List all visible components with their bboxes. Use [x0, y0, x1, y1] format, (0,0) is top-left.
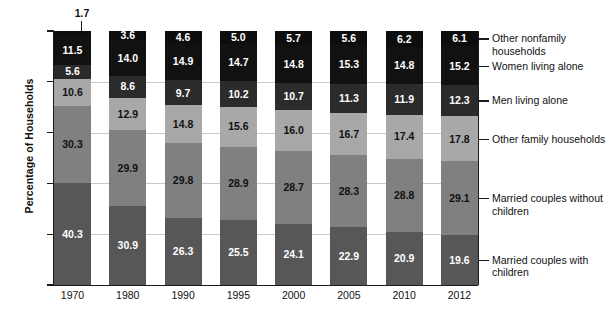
bar-value-label: 16.7 [339, 129, 359, 140]
bar-segment[interactable]: 3.6 [109, 31, 146, 40]
bar-segment[interactable]: 26.3 [165, 218, 202, 285]
bar-segment[interactable]: 22.9 [330, 227, 367, 285]
bar-value-label: 30.9 [118, 240, 138, 251]
bar-segment[interactable]: 5.6 [54, 65, 91, 79]
bar-value-label: 8.6 [120, 81, 135, 92]
bar-value-label: 25.5 [228, 247, 248, 258]
bar-segment[interactable]: 14.8 [165, 105, 202, 143]
bar-segment[interactable]: 5.6 [330, 31, 367, 45]
callout-value: 1.7 [62, 8, 102, 19]
x-axis-label-2005: 2005 [330, 289, 367, 301]
x-axis-label-2000: 2000 [275, 289, 312, 301]
bar-segment[interactable]: 28.7 [275, 151, 312, 224]
bar-value-label: 14.9 [173, 56, 193, 67]
bar-segment[interactable]: 40.3 [54, 183, 91, 285]
bar-segment[interactable]: 28.3 [330, 155, 367, 227]
bar-value-label: 4.6 [176, 32, 191, 43]
bar-segment[interactable]: 20.9 [386, 232, 423, 285]
bar-segment[interactable]: 16.0 [275, 110, 312, 151]
bar-segment[interactable]: 14.7 [220, 44, 257, 81]
bar-segment[interactable]: 5.0 [220, 31, 257, 44]
legend-item-other-nonfamily-households[interactable]: Other nonfamily households [478, 32, 612, 57]
bar-value-label: 20.9 [394, 253, 414, 264]
bar-value-label: 30.3 [62, 139, 82, 150]
bar-2005[interactable]: 5.615.311.316.728.322.9 [330, 31, 367, 285]
bar-value-label: 10.2 [228, 89, 248, 100]
x-axis-label-1990: 1990 [165, 289, 202, 301]
bar-segment[interactable]: 14.0 [109, 40, 146, 76]
x-axis-label-2012: 2012 [441, 289, 478, 301]
x-axis-label-1995: 1995 [220, 289, 257, 301]
bar-value-label: 14.7 [228, 57, 248, 68]
bar-value-label: 24.1 [283, 249, 303, 260]
bar-value-label: 15.3 [339, 59, 359, 70]
legend-item-married-couples-with-children[interactable]: Married couples with children [478, 254, 612, 279]
bar-segment[interactable]: 12.9 [109, 98, 146, 131]
bar-segment[interactable]: 14.8 [275, 45, 312, 83]
x-axis-labels: 19701980199019952000200520102012 [54, 289, 478, 301]
legend-leader-line [478, 139, 489, 140]
legend-item-married-couples-without-children[interactable]: Married couples without children [478, 192, 612, 217]
bar-1990[interactable]: 4.614.99.714.829.826.3 [165, 31, 202, 285]
bar-value-label: 6.1 [452, 33, 467, 44]
bar-segment[interactable]: 29.1 [441, 161, 478, 235]
bar-segment[interactable]: 12.3 [441, 85, 478, 116]
bar-segment[interactable]: 10.6 [54, 79, 91, 106]
legend: Other nonfamily householdsWomen living a… [478, 31, 614, 285]
bar-segment[interactable]: 10.2 [220, 81, 257, 107]
bar-segment[interactable]: 9.7 [165, 80, 202, 105]
bar-segment[interactable]: 14.8 [386, 47, 423, 85]
y-tick-100 [47, 30, 54, 31]
legend-item-other-family-households[interactable]: Other family households [478, 133, 612, 145]
bar-segment[interactable]: 5.7 [275, 31, 312, 45]
legend-label: Married couples without children [492, 192, 612, 217]
legend-label: Other family households [492, 133, 612, 145]
bar-value-label: 5.0 [231, 32, 246, 43]
bar-segment[interactable]: 29.9 [109, 130, 146, 206]
bar-value-label: 14.8 [173, 119, 193, 130]
bar-2010[interactable]: 6.214.811.917.428.820.9 [386, 31, 423, 285]
y-tick-80 [47, 81, 54, 82]
bar-segment[interactable]: 15.2 [441, 46, 478, 85]
bar-2012[interactable]: 6.115.212.317.829.119.6 [441, 31, 478, 285]
bar-segment[interactable]: 29.8 [165, 143, 202, 219]
bar-value-label: 3.6 [120, 31, 135, 40]
bar-value-label: 5.6 [342, 33, 357, 44]
bar-segment[interactable]: 11.5 [54, 35, 91, 64]
bar-2000[interactable]: 5.714.810.716.028.724.1 [275, 31, 312, 285]
bar-segment[interactable]: 10.7 [275, 83, 312, 110]
bar-segment[interactable]: 11.3 [330, 84, 367, 113]
legend-item-women-living-alone[interactable]: Women living alone [478, 60, 612, 72]
bar-1995[interactable]: 5.014.710.215.628.925.5 [220, 31, 257, 285]
legend-item-men-living-alone[interactable]: Men living alone [478, 94, 612, 106]
bar-segment[interactable]: 4.6 [165, 31, 202, 43]
bar-value-label: 9.7 [176, 88, 191, 99]
bar-value-label: 28.7 [283, 182, 303, 193]
bar-segment[interactable]: 24.1 [275, 224, 312, 285]
y-axis-title: Percentage of Households [23, 56, 35, 236]
bar-segment[interactable]: 30.3 [54, 106, 91, 183]
bar-segment[interactable]: 8.6 [109, 76, 146, 98]
bar-segment[interactable]: 15.6 [220, 107, 257, 147]
bar-segment[interactable]: 11.9 [386, 84, 423, 114]
y-tick-20 [47, 234, 54, 235]
bar-segment[interactable]: 14.9 [165, 43, 202, 81]
x-axis-label-1970: 1970 [54, 289, 91, 301]
bar-segment[interactable]: 30.9 [109, 206, 146, 284]
legend-leader-line [478, 198, 489, 199]
bar-segment[interactable]: 28.9 [220, 147, 257, 220]
bar-segment[interactable]: 17.4 [386, 115, 423, 159]
bar-value-label: 11.9 [394, 94, 414, 105]
bar-1980[interactable]: 3.614.08.612.929.930.9 [109, 31, 146, 285]
bar-segment[interactable]: 6.2 [386, 31, 423, 47]
bar-segment[interactable]: 25.5 [220, 220, 257, 285]
bar-value-label: 11.5 [63, 45, 83, 56]
bar-segment[interactable]: 19.6 [441, 235, 478, 285]
bar-segment[interactable]: 28.8 [386, 159, 423, 232]
bar-1970[interactable]: 1.711.55.610.630.340.3 [54, 31, 91, 285]
bar-segment[interactable]: 6.1 [441, 31, 478, 46]
bar-segment[interactable]: 16.7 [330, 113, 367, 155]
bar-segment[interactable]: 15.3 [330, 45, 367, 84]
bar-segment[interactable]: 17.8 [441, 116, 478, 161]
bar-value-label: 5.6 [65, 66, 80, 77]
